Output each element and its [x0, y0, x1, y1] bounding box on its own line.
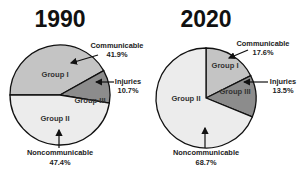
- annotation-noncommunicable-value: 47.4%: [50, 158, 71, 167]
- annotation-communicable: Communicable: [91, 41, 144, 50]
- slice-label-group-ii: Group II: [171, 94, 200, 103]
- slice-label-group-i: Group I: [212, 61, 239, 70]
- slice-label-group-iii: Group III: [74, 96, 105, 105]
- annotation-noncommunicable: Noncommunicable: [27, 148, 93, 157]
- annotation-communicable-value: 17.6%: [253, 48, 274, 57]
- pie-chart-1990: 1990 Group I Group III Group II Communic…: [10, 6, 143, 167]
- annotation-injuries: Injuries: [270, 77, 296, 86]
- slice-label-group-iii: Group III: [219, 87, 250, 96]
- annotation-communicable: Communicable: [237, 39, 290, 48]
- annotation-injuries-value: 13.5%: [273, 86, 294, 95]
- pie-charts-figure: 1990 Group I Group III Group II Communic…: [0, 0, 302, 176]
- annotation-noncommunicable: Noncommunicable: [173, 148, 239, 157]
- annotation-injuries-value: 10.7%: [118, 86, 139, 95]
- slice-label-group-ii: Group II: [40, 114, 69, 123]
- chart-title: 1990: [34, 6, 85, 32]
- pie: [10, 45, 110, 145]
- chart-title: 2020: [180, 6, 231, 32]
- annotation-injuries: Injuries: [115, 77, 141, 86]
- annotation-communicable-value: 41.9%: [107, 50, 128, 59]
- arrow-icon: [229, 50, 248, 58]
- annotation-noncommunicable-value: 68.7%: [196, 158, 217, 167]
- slice-label-group-i: Group I: [42, 70, 69, 79]
- pie-chart-2020: 2020 Group I Group III Group II Communic…: [156, 6, 296, 167]
